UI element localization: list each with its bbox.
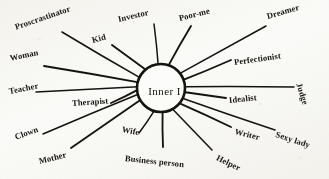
spoke-line-poor-me xyxy=(168,26,191,66)
spoke-line-kid xyxy=(112,45,147,70)
spoke-line-idealist xyxy=(184,92,226,98)
spoke-line-investor xyxy=(154,24,158,65)
spoke-line-dreamer xyxy=(179,26,266,74)
spoke-line-perfectionist xyxy=(183,60,231,80)
spoke-line-wife xyxy=(139,110,155,133)
inner-i-diagram: Inner I ProscrastinatorKidInvestorPoor-m… xyxy=(0,0,329,179)
spoke-line-teacher xyxy=(36,87,138,92)
hub-circle xyxy=(137,64,185,112)
spoke-line-business-person xyxy=(162,111,163,147)
